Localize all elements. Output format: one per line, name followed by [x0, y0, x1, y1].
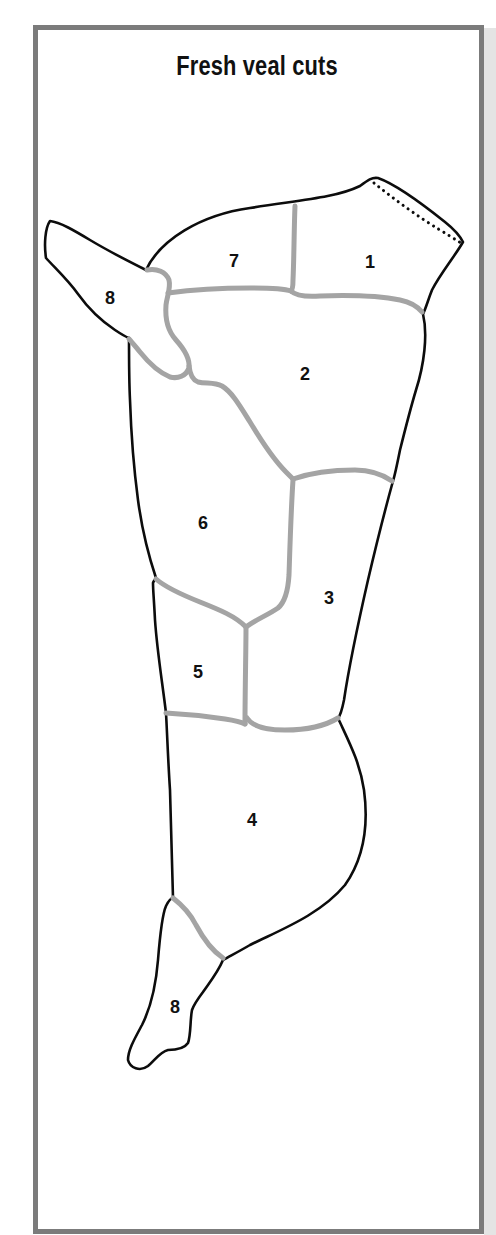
divider-3-4 — [247, 718, 338, 730]
divider-5-4 — [166, 713, 245, 724]
cut-label-4: 4 — [247, 810, 257, 830]
divider-7-2 — [168, 288, 291, 293]
divider-4-8 — [173, 898, 223, 958]
divider-8-7-2 — [129, 269, 189, 377]
divider-1-2 — [291, 291, 422, 312]
cut-label-7: 7 — [229, 251, 239, 271]
cut-label-3: 3 — [324, 588, 334, 608]
cut-label-6: 6 — [198, 513, 208, 533]
divider-6-5 — [156, 579, 246, 627]
divider-2-3 — [293, 470, 392, 481]
divider-2-6 — [189, 366, 293, 479]
cut-label-1: 1 — [365, 252, 375, 272]
cut-8-top-outline — [45, 221, 146, 338]
divider-5-3 — [245, 627, 246, 724]
carcass-outline — [128, 178, 463, 1069]
cut-label-8-bottom: 8 — [170, 997, 180, 1017]
cut-label-8-top: 8 — [105, 288, 115, 308]
cut-label-5: 5 — [193, 662, 203, 682]
divider-7-1 — [291, 206, 295, 291]
divider-6-3 — [246, 480, 293, 627]
cut-label-2: 2 — [300, 364, 310, 384]
cut-1-dotted-edge — [374, 183, 461, 243]
veal-cuts-diagram: 1 7 8 2 6 3 5 4 8 — [0, 0, 496, 1235]
